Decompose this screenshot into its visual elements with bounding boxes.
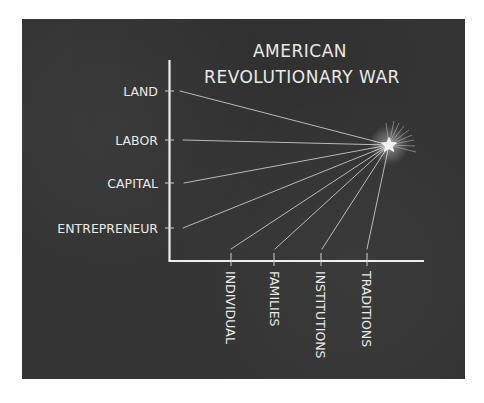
x-label-institutions: INSTITUTIONS (313, 271, 328, 359)
diagram-title: AMERICAN REVOLUTIONARY WAR (204, 41, 400, 87)
y-axis-labels: LAND LABOR CAPITAL ENTREPRENEUR (57, 84, 158, 236)
x-axis-labels: INDIVIDUAL FAMILIES INSTITUTIONS TRADITI… (223, 270, 374, 359)
y-label-entrepreneur: ENTREPRENEUR (57, 221, 158, 236)
line-labor (183, 140, 389, 145)
star-burst (369, 121, 416, 165)
line-entrepreneur (183, 145, 389, 228)
converging-lines (180, 91, 389, 249)
y-label-capital: CAPITAL (107, 176, 158, 191)
line-capital (184, 145, 389, 183)
x-label-traditions: TRADITIONS (359, 270, 374, 347)
line-land (180, 91, 389, 145)
x-label-families: FAMILIES (267, 271, 282, 327)
y-label-land: LAND (123, 84, 158, 99)
x-label-individual: INDIVIDUAL (223, 271, 238, 344)
diagram-canvas: AMERICAN REVOLUTIONARY WAR LAND LABOR CA… (0, 0, 484, 403)
y-label-labor: LABOR (115, 133, 158, 148)
line-individual (231, 145, 389, 249)
title-line-2: REVOLUTIONARY WAR (204, 67, 400, 87)
title-line-1: AMERICAN (253, 41, 347, 61)
x-axis-ticks (231, 253, 367, 266)
